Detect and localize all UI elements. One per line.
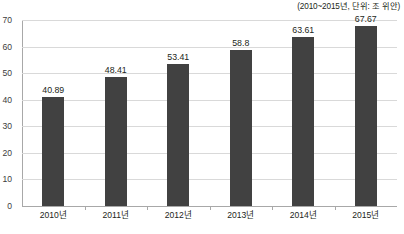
bar [167, 64, 189, 206]
y-tick-label: 0 [0, 202, 12, 211]
y-tick-label: 60 [0, 42, 12, 51]
bar-value-label: 53.41 [148, 52, 208, 62]
bar [105, 77, 127, 206]
bar [292, 37, 314, 206]
bar-value-label: 48.41 [86, 65, 146, 75]
x-tick-label: 2011년 [84, 210, 148, 221]
x-axis: 2010년2011년2012년2013년2014년2015년 [22, 207, 397, 221]
bar-value-label: 58.8 [211, 38, 271, 48]
x-tick-label: 2015년 [334, 210, 398, 221]
bar [355, 26, 377, 206]
x-tick-label: 2012년 [146, 210, 210, 221]
x-tick-label: 2013년 [209, 210, 273, 221]
bar [42, 97, 64, 206]
bar-group: 40.89 [22, 20, 85, 206]
source-footer [2, 227, 402, 234]
y-tick-label: 50 [0, 69, 12, 78]
bar-group: 63.61 [272, 20, 335, 206]
plot-area: 010203040506070 40.8948.4153.4158.863.61… [22, 20, 397, 206]
bar-group: 48.41 [85, 20, 148, 206]
bar-chart-figure: (2010~2015년, 단위: 조 위안) 010203040506070 4… [0, 0, 404, 234]
y-tick-label: 30 [0, 122, 12, 131]
y-tick-label: 70 [0, 16, 12, 25]
bar-group: 58.8 [210, 20, 273, 206]
bar-group: 53.41 [147, 20, 210, 206]
bar-value-label: 63.61 [273, 25, 333, 35]
chart-unit-caption: (2010~2015년, 단위: 조 위안) [297, 1, 400, 12]
x-tick-label: 2014년 [271, 210, 335, 221]
bar-value-label: 40.89 [23, 85, 83, 95]
x-tick-label: 2010년 [21, 210, 85, 221]
bar-group: 67.67 [335, 20, 398, 206]
bar-value-label: 67.67 [336, 14, 396, 24]
bar [230, 50, 252, 206]
y-tick-label: 10 [0, 175, 12, 184]
y-tick-label: 20 [0, 148, 12, 157]
y-tick-label: 40 [0, 95, 12, 104]
